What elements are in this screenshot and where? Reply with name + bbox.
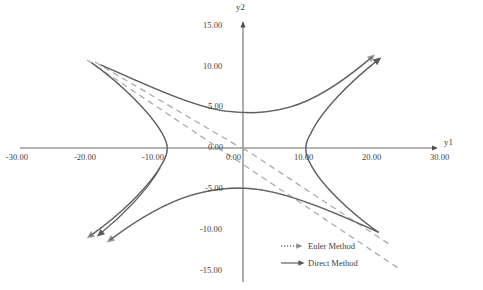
x-tick-label-3: 0.00: [226, 152, 241, 162]
y-tick-label-0: 15.00: [203, 20, 222, 30]
y-axis-title: y2: [236, 2, 245, 12]
y-tick-label-3: 0.00: [208, 142, 223, 152]
x-tick-label-6: 30.00: [430, 152, 449, 162]
x-tick-label-5: 20.00: [362, 152, 381, 162]
chart-container: -30.00 -20.00 -10.00 0.00 10.00 20.00 30…: [0, 0, 483, 290]
y-tick-label-1: 10.00: [203, 61, 222, 71]
legend-item-euler-label: Euler Method: [308, 241, 355, 251]
y-tick-label-5: -10.00: [200, 224, 222, 234]
x-tick-label-0: -30.00: [6, 152, 28, 162]
direct-lower-branch: [110, 188, 378, 240]
y-tick-label-2: 5.00: [208, 101, 223, 111]
legend-item-direct-label: Direct Method: [308, 258, 358, 268]
plot-canvas: [0, 0, 483, 290]
legend-sample-lines: [281, 246, 303, 263]
x-axis-title: y1: [444, 137, 453, 147]
direct-left-lower-tail: [100, 168, 160, 234]
x-tick-label-2: -10.00: [142, 152, 164, 162]
x-tick-label-4: 10.00: [294, 152, 313, 162]
asymptote-positive-slope-lower: [243, 148, 392, 246]
x-tick-label-1: -20.00: [74, 152, 96, 162]
y-tick-label-6: -15.00: [200, 265, 222, 275]
asymptote-positive-slope-upper: [95, 62, 248, 152]
y-tick-label-4: -5.00: [205, 183, 223, 193]
